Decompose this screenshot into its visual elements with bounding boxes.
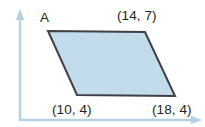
coordinate-label-bottom-right: (18, 4)	[152, 103, 192, 117]
parallelogram-shape	[48, 31, 175, 96]
vertex-label-a: A	[40, 11, 49, 25]
coordinate-label-top-right: (14, 7)	[117, 9, 157, 23]
coordinate-label-bottom-left: (10, 4)	[52, 103, 92, 117]
x-axis	[19, 116, 202, 124]
y-axis	[16, 9, 24, 121]
geometry-figure: A (14, 7) (10, 4) (18, 4)	[0, 0, 205, 127]
